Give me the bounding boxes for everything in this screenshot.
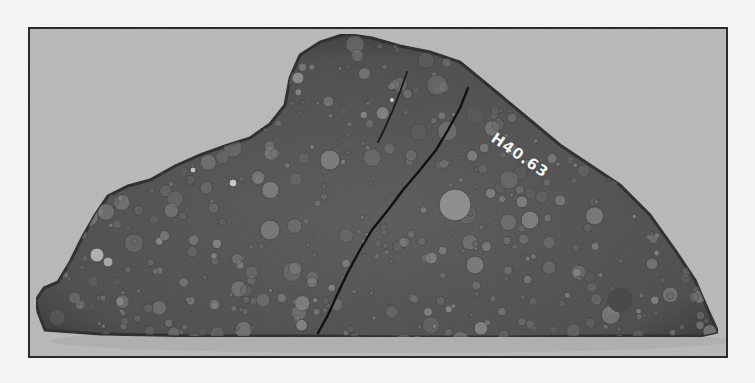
chondrule [67, 277, 71, 281]
chondrule [145, 326, 155, 336]
chondrule [632, 214, 636, 218]
chondrule [295, 89, 302, 96]
chondrule [618, 259, 623, 264]
chondrule [564, 292, 570, 298]
chondrule [358, 68, 370, 80]
chondrule-prominent [292, 72, 304, 84]
chondrule [418, 237, 426, 245]
chondrule [395, 48, 400, 53]
chondrule [583, 223, 592, 232]
chondrule [295, 296, 310, 311]
chondrule [49, 310, 65, 326]
chondrule [137, 289, 141, 293]
chondrule [479, 225, 484, 230]
chondrule [689, 292, 699, 302]
chondrule [109, 223, 114, 228]
chondrule [121, 291, 125, 295]
chondrule [235, 326, 239, 330]
meteorite-slab-image [30, 29, 726, 356]
chondrule [424, 308, 433, 317]
chondrule [384, 143, 395, 154]
chondrule [433, 324, 437, 328]
chondrule [345, 132, 350, 137]
chondrule [382, 64, 387, 69]
chondrule [420, 207, 427, 214]
chondrule [617, 327, 622, 332]
chondrule-prominent [90, 248, 104, 262]
chondrule-prominent [439, 189, 471, 221]
chondrule [466, 106, 484, 124]
chondrule [323, 308, 328, 313]
chondrule [88, 303, 96, 311]
chondrule [152, 268, 158, 274]
chondrule [518, 317, 526, 325]
chondrule [496, 118, 501, 123]
chondrule [368, 180, 374, 186]
chondrule [374, 240, 381, 247]
chondrule [472, 281, 481, 290]
chondrule [256, 293, 270, 307]
chondrule [314, 200, 321, 207]
chondrule [309, 64, 315, 70]
chondrule [450, 231, 455, 236]
chondrule [438, 246, 447, 255]
chondrule [258, 243, 264, 249]
chondrule [461, 156, 465, 160]
chondrule [271, 149, 281, 159]
chondrule [704, 318, 709, 323]
chondrule [581, 190, 586, 195]
chondrule [407, 230, 415, 238]
chondrule [504, 266, 512, 274]
chondrule [133, 314, 141, 322]
chondrule [498, 307, 506, 315]
chondrule [649, 235, 658, 244]
chondrule [134, 205, 144, 215]
chondrule [210, 199, 214, 203]
chondrule [469, 313, 473, 317]
chondrule [543, 178, 551, 186]
chondrule [478, 164, 488, 174]
chondrule [603, 324, 608, 329]
chondrule [152, 301, 167, 316]
chondrule [364, 97, 368, 101]
chondrule [382, 243, 388, 249]
chondrule-prominent [466, 256, 484, 274]
chondrule [474, 321, 488, 335]
chondrule [474, 291, 480, 297]
chondrule-prominent [229, 179, 237, 187]
chondrule [403, 89, 413, 99]
chondrule [240, 284, 252, 296]
chondrule [405, 149, 417, 161]
chondrule [411, 124, 428, 141]
chondrule [149, 187, 156, 194]
chondrule [88, 276, 98, 286]
chondrule [125, 225, 131, 231]
chondrule [504, 276, 509, 281]
chondrule [347, 122, 352, 127]
chondrule-prominent [608, 288, 632, 312]
chondrule [586, 207, 604, 225]
chondrule [307, 277, 318, 288]
chondrule [585, 318, 595, 328]
chondrule [684, 274, 689, 279]
chondrule [160, 231, 170, 241]
chondrule [300, 100, 305, 105]
chondrule [372, 316, 377, 321]
chondrule [336, 141, 341, 146]
chondrule [366, 101, 371, 106]
chondrule [404, 110, 408, 114]
chondrule [585, 272, 596, 283]
chondrule [646, 258, 658, 270]
chondrule-prominent [320, 150, 340, 170]
chondrule [440, 272, 446, 278]
chondrule [509, 193, 514, 198]
chondrule [369, 291, 373, 295]
chondrule [304, 219, 309, 224]
chondrule [290, 173, 302, 185]
chondrule [287, 219, 302, 234]
chondrule [246, 266, 258, 278]
chondrule [232, 253, 243, 264]
chondrule [525, 256, 530, 261]
chondrule [263, 128, 267, 132]
chondrule [418, 52, 434, 68]
